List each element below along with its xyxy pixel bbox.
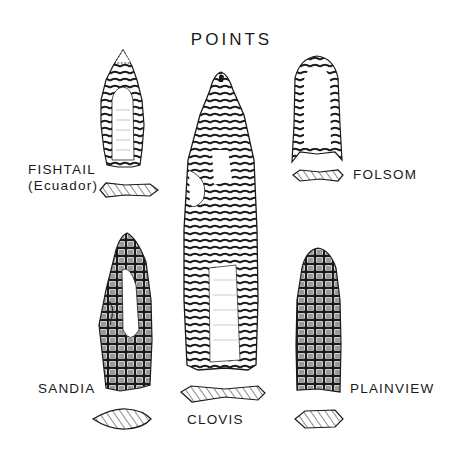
sandia-cross-section: [93, 409, 151, 429]
sandia-label: SANDIA: [38, 381, 95, 397]
fishtail-point: [101, 50, 144, 167]
clovis-label: CLOVIS: [187, 412, 244, 428]
sandia-point: [99, 233, 152, 391]
fishtail-cross-section: [100, 183, 158, 197]
folsom-point: [292, 56, 342, 162]
fishtail-label: FISHTAIL (Ecuador): [28, 162, 98, 194]
fishtail-label-line2: (Ecuador): [28, 178, 98, 194]
clovis-cross-section: [181, 386, 265, 402]
fishtail-label-line1: FISHTAIL: [28, 162, 98, 178]
folsom-label: FOLSOM: [353, 167, 417, 183]
plainview-point: [296, 248, 341, 392]
plainview-cross-section: [295, 410, 343, 428]
clovis-point: [184, 72, 258, 370]
plainview-label: PLAINVIEW: [350, 381, 434, 397]
folsom-cross-section: [293, 170, 343, 181]
